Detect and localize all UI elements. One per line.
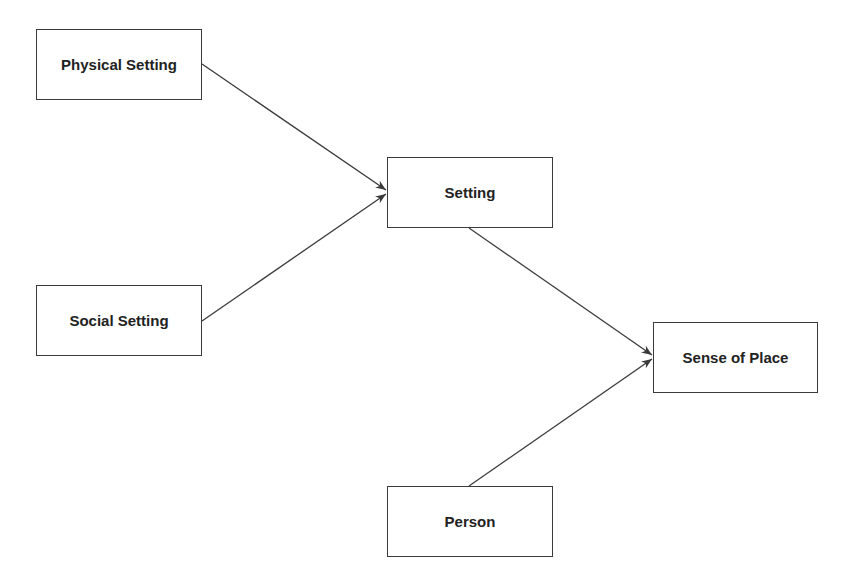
node-physical-setting: Physical Setting bbox=[36, 29, 202, 100]
node-sense-of-place: Sense of Place bbox=[653, 322, 818, 393]
edge-setting-to-sense bbox=[469, 228, 652, 355]
node-label: Social Setting bbox=[69, 312, 168, 329]
node-label: Sense of Place bbox=[683, 349, 789, 366]
node-social-setting: Social Setting bbox=[36, 285, 202, 356]
node-label: Physical Setting bbox=[61, 56, 177, 73]
node-label: Person bbox=[445, 513, 496, 530]
edge-person-to-sense bbox=[469, 359, 652, 486]
node-person: Person bbox=[387, 486, 553, 557]
node-setting: Setting bbox=[387, 157, 553, 228]
node-label: Setting bbox=[445, 184, 496, 201]
edge-physical-to-setting bbox=[202, 64, 386, 190]
edge-social-to-setting bbox=[202, 194, 386, 321]
